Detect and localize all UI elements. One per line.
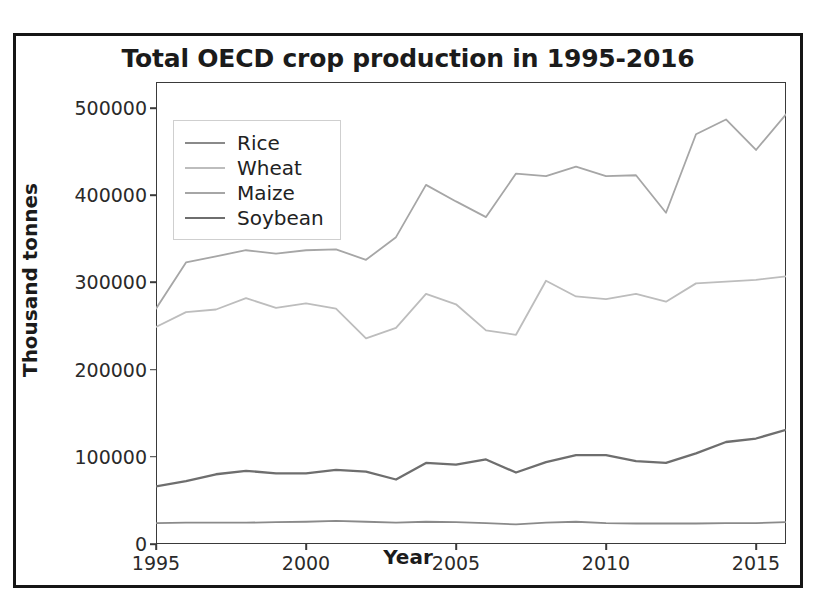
series-line-rice — [156, 521, 786, 524]
plot-area: 0100000200000300000400000500000 19952000… — [156, 82, 786, 544]
x-tick-mark — [155, 544, 157, 550]
legend-label: Wheat — [237, 158, 302, 178]
x-tick-mark — [755, 544, 757, 550]
legend-item-rice[interactable]: Rice — [185, 130, 324, 155]
x-tick-label: 2000 — [282, 552, 330, 574]
y-tick-mark — [150, 107, 156, 109]
legend-item-maize[interactable]: Maize — [185, 180, 324, 205]
x-tick-label: 1995 — [132, 552, 180, 574]
series-line-wheat — [156, 276, 786, 338]
x-tick-mark — [305, 544, 307, 550]
legend-item-wheat[interactable]: Wheat — [185, 155, 324, 180]
y-tick-label: 200000 — [74, 359, 147, 381]
legend-item-soybean[interactable]: Soybean — [185, 205, 324, 230]
y-tick-label: 500000 — [74, 97, 147, 119]
legend-swatch-wheat — [185, 167, 225, 169]
legend-swatch-maize — [185, 192, 225, 194]
y-tick-label: 300000 — [74, 271, 147, 293]
legend-label: Soybean — [237, 208, 324, 228]
x-tick-label: 2005 — [432, 552, 480, 574]
legend-label: Rice — [237, 133, 280, 153]
y-tick-mark — [150, 369, 156, 371]
y-axis-label: Thousand tonnes — [18, 80, 42, 480]
figure-frame: Total OECD crop production in 1995-2016 … — [13, 33, 803, 588]
y-tick-label: 400000 — [74, 184, 147, 206]
x-tick-mark — [455, 544, 457, 550]
chart-legend: RiceWheatMaizeSoybean — [173, 120, 341, 240]
y-tick-mark — [150, 195, 156, 197]
y-tick-label: 100000 — [74, 446, 147, 468]
legend-swatch-soybean — [185, 217, 225, 219]
x-tick-label: 2015 — [732, 552, 780, 574]
x-tick-label: 2010 — [582, 552, 630, 574]
y-tick-mark — [150, 282, 156, 284]
legend-label: Maize — [237, 183, 295, 203]
series-line-soybean — [156, 430, 786, 487]
chart-title: Total OECD crop production in 1995-2016 — [16, 44, 800, 73]
legend-swatch-rice — [185, 142, 225, 144]
y-tick-mark — [150, 456, 156, 458]
x-tick-mark — [605, 544, 607, 550]
